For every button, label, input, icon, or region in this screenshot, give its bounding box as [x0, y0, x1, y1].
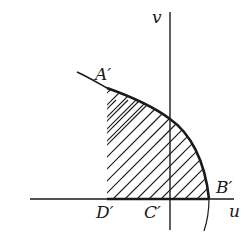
label-point-c: C′ [144, 202, 161, 222]
boundary-curve [107, 88, 209, 199]
curve-extension-below [204, 199, 209, 231]
label-v-axis: v [152, 7, 162, 27]
label-point-a: A′ [93, 64, 111, 84]
diagram-canvas: v u A′ B′ C′ D′ [0, 0, 248, 252]
label-u-axis: u [229, 201, 240, 221]
hatch-fill [0, 60, 248, 240]
label-point-d: D′ [95, 202, 114, 222]
label-point-b: B′ [215, 177, 232, 197]
